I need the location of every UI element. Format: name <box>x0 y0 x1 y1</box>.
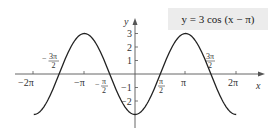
x-tick-neg2pi: −2π <box>18 77 34 88</box>
y-tick-3: 3 <box>127 28 132 39</box>
zero-label-negpi2: − π 2 <box>95 77 108 95</box>
x-tick-negpi: −π <box>74 77 85 88</box>
zero-label-3pi2: 3π 2 <box>205 52 215 70</box>
y-axis-label: y <box>123 16 129 27</box>
y-tick-neg1: −1 <box>121 82 132 93</box>
x-tick-2pi: 2π <box>228 77 238 88</box>
zero-label-pi2: π 2 <box>158 77 165 95</box>
y-tick-1: 1 <box>127 55 132 66</box>
x-axis-arrow-icon <box>258 72 265 77</box>
svg-text:π: π <box>159 77 163 86</box>
svg-text:2: 2 <box>52 61 56 70</box>
x-axis-label: x <box>255 80 261 91</box>
svg-text:−: − <box>42 54 47 63</box>
svg-text:π: π <box>102 77 106 86</box>
x-tick-pi: π <box>181 77 186 88</box>
zero-label-neg3pi2: − 3π 2 <box>42 52 59 70</box>
y-tick-2: 2 <box>127 42 132 53</box>
y-tick-neg2: −2 <box>121 96 132 107</box>
svg-text:3π: 3π <box>49 52 57 61</box>
svg-text:3π: 3π <box>206 52 214 61</box>
cosine-plot: x y 3 2 1 −1 −2 −2π −π π 2π − 3π 2 − π 2 <box>0 0 275 131</box>
y-axis-arrow-icon <box>133 18 138 25</box>
svg-text:−: − <box>95 80 100 89</box>
svg-text:2: 2 <box>102 86 106 95</box>
svg-text:2: 2 <box>159 86 163 95</box>
